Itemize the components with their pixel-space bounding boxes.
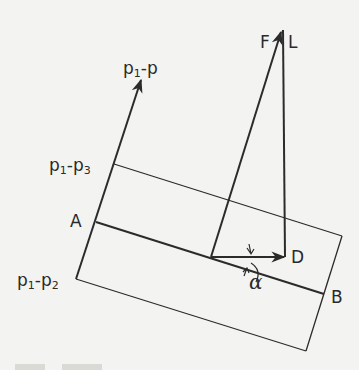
caption-remnant: [62, 364, 102, 370]
caption-remnant: [15, 364, 45, 370]
rect-bottom-edge: [76, 279, 306, 351]
diagram-canvas: p1-p p1-p3 A p1-p2 F L D B α: [0, 0, 359, 370]
line-A-B: [96, 222, 324, 294]
label-p1-p3: p1-p3: [49, 157, 91, 176]
tick-arrow-icon: [247, 244, 254, 254]
label-D: D: [291, 249, 304, 266]
vector-L: [283, 30, 285, 257]
vector-F: [211, 32, 281, 257]
label-p1-p: p1-p: [123, 60, 158, 79]
label-A: A: [70, 213, 82, 230]
label-B: B: [331, 289, 343, 306]
label-F: F: [260, 34, 270, 51]
label-p1-p2: p1-p2: [17, 272, 59, 291]
label-alpha: α: [249, 272, 263, 292]
diagram-svg: [0, 0, 359, 370]
label-L: L: [288, 34, 297, 51]
axis-p1-p: [76, 80, 141, 279]
